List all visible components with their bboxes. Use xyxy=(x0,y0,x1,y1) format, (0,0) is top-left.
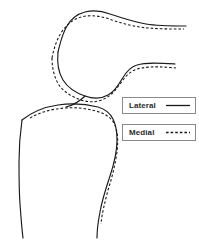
contour-path-tibia-medial-border xyxy=(19,120,23,238)
legend: Lateral Medial xyxy=(122,97,196,141)
contour-path-femur-posterior-and-trochlea xyxy=(52,58,176,102)
contour-path-tibial-plateau-and-shaft xyxy=(22,104,117,238)
contour-path-femur-anterior-and-condyle xyxy=(58,11,186,52)
legend-item-medial[interactable]: Medial xyxy=(122,124,196,141)
contour-path-tibial-plateau-and-shaft xyxy=(30,108,118,224)
knee-contour-figure: Lateral Medial xyxy=(0,0,199,240)
contour-path-femur-anterior-and-condyle xyxy=(52,16,184,58)
contour-path-patella-lower-facet xyxy=(66,96,85,107)
dashed-line-icon xyxy=(165,128,191,137)
legend-label-lateral: Lateral xyxy=(129,102,156,110)
legend-item-lateral[interactable]: Lateral xyxy=(122,97,196,114)
solid-line-icon xyxy=(165,101,191,110)
contour-path-femur-posterior-and-trochlea xyxy=(58,52,175,98)
legend-label-medial: Medial xyxy=(129,129,155,137)
